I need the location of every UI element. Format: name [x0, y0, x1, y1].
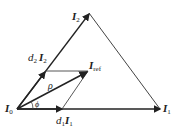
- label-i0: I0: [4, 102, 13, 116]
- triangle-right-edge: [89, 13, 160, 109]
- label-iref: Iref: [88, 59, 102, 73]
- label-i2: I2: [71, 10, 80, 24]
- label-i1: I1: [162, 102, 171, 116]
- phi-arc: [31, 101, 33, 109]
- label-d2-i2: d2I2: [28, 51, 47, 65]
- label-d1-i1: d1I1: [56, 114, 73, 128]
- label-rho: ρ: [47, 80, 53, 91]
- label-phi: ϕ: [35, 100, 39, 109]
- parallel-line-right: [62, 71, 88, 109]
- vector-diagram: I2 d2I2 Iref ρ ϕ I0 I1 d1I1: [0, 0, 177, 129]
- d2-arrow: [17, 72, 45, 109]
